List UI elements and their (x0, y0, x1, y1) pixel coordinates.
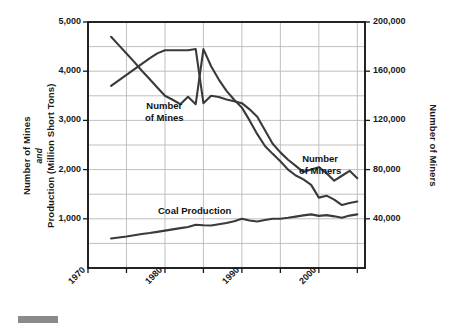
series-label-number-of-mines: Number of Mines (145, 100, 184, 124)
left-tick-label: 1,000 (26, 213, 81, 223)
left-tick-label: 5,000 (26, 16, 81, 26)
series-label-mines-line1: Number (146, 100, 182, 111)
right-tick-label: 40,000 (373, 213, 401, 223)
series-label-coal-production: Coal Production (158, 205, 231, 217)
right-tick-label: 200,000 (373, 16, 406, 26)
right-tick-label: 120,000 (373, 114, 406, 124)
right-tick-label: 80,000 (373, 164, 401, 174)
left-tick-label: 2,000 (26, 164, 81, 174)
left-tick-label: 3,000 (26, 114, 81, 124)
series-label-miners-line1: Number (302, 153, 338, 164)
series-label-mines-line2: of Mines (145, 112, 184, 123)
caption-bar (18, 316, 58, 323)
series-label-coal-line1: Coal Production (158, 205, 231, 216)
coal-industry-line-chart: Number of Mines and Production (Million … (0, 0, 454, 323)
left-axis-title-and: and (34, 148, 44, 163)
left-axis-title: Number of Mines and Production (Million … (21, 56, 57, 256)
left-axis-title-line2: Production (Million Short Tons) (45, 84, 56, 228)
left-tick-label: 4,000 (26, 65, 81, 75)
right-tick-label: 160,000 (373, 65, 406, 75)
right-axis-title: Number of Miners (428, 76, 439, 216)
series-label-number-of-miners: Number of Miners (299, 153, 341, 177)
series-label-miners-line2: of Miners (299, 165, 341, 176)
left-axis-title-line1: Number of Mines (21, 116, 32, 195)
caption-strip (18, 316, 168, 323)
